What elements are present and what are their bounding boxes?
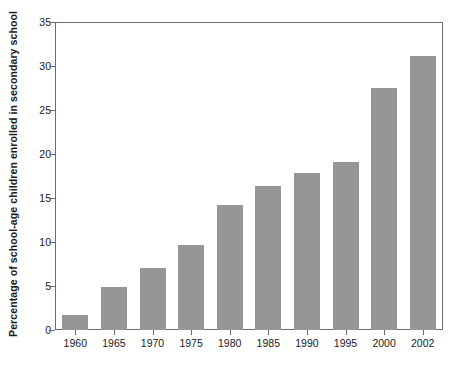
- x-tick-label: 1975: [179, 338, 202, 349]
- bar-1965: [101, 287, 127, 330]
- y-tick-mark: [49, 110, 55, 111]
- x-tick-label: 1985: [257, 338, 280, 349]
- x-tick-label: 1970: [141, 338, 164, 349]
- x-tick-mark: [268, 330, 269, 335]
- x-tick-label: 1995: [334, 338, 357, 349]
- bar-1970: [140, 268, 166, 330]
- y-axis-title: Percentage of school-age children enroll…: [0, 0, 26, 348]
- x-tick-mark: [153, 330, 154, 335]
- bar-2000: [371, 88, 397, 330]
- y-tick-mark: [49, 242, 55, 243]
- x-tick-mark: [191, 330, 192, 335]
- bar-1980: [217, 205, 243, 330]
- y-axis-tick-labels: 05101520253035: [26, 0, 52, 370]
- bar-2002: [410, 56, 436, 330]
- bar-1990: [294, 173, 320, 330]
- y-tick-mark: [49, 66, 55, 67]
- x-tick-label: 1960: [64, 338, 87, 349]
- x-tick-label: 1990: [295, 338, 318, 349]
- x-tick-mark: [384, 330, 385, 335]
- y-tick-mark: [49, 198, 55, 199]
- bar-1995: [333, 162, 359, 330]
- bar-1960: [62, 315, 88, 330]
- y-tick-mark: [49, 330, 55, 331]
- x-tick-mark: [230, 330, 231, 335]
- bar-chart: Percentage of school-age children enroll…: [0, 0, 459, 370]
- x-tick-label: 1980: [218, 338, 241, 349]
- y-tick-mark: [49, 154, 55, 155]
- y-tick-mark: [49, 286, 55, 287]
- x-tick-mark: [423, 330, 424, 335]
- x-tick-mark: [307, 330, 308, 335]
- x-tick-label: 2000: [372, 338, 395, 349]
- x-tick-mark: [346, 330, 347, 335]
- plot-area: [56, 23, 442, 330]
- bar-1985: [255, 186, 281, 330]
- x-tick-mark: [114, 330, 115, 335]
- bar-1975: [178, 245, 204, 330]
- x-tick-mark: [75, 330, 76, 335]
- x-axis: 1960196519701975198019851990199520002002: [56, 330, 442, 370]
- x-tick-label: 2002: [411, 338, 434, 349]
- x-tick-label: 1965: [102, 338, 125, 349]
- y-axis-title-text: Percentage of school-age children enroll…: [8, 11, 19, 337]
- y-tick-mark: [49, 22, 55, 23]
